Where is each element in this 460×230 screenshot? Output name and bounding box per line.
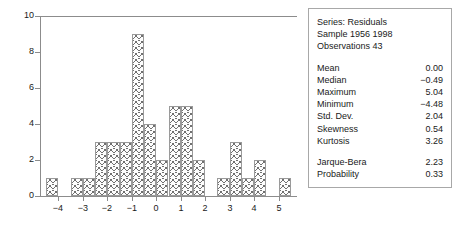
statistic-row: Median−0.49 (317, 74, 443, 86)
x-axis-label: 3 (218, 203, 242, 213)
x-axis-line (40, 196, 297, 197)
statistic-row: Skewness0.54 (317, 123, 443, 135)
statistic-label: Skewness (317, 123, 358, 135)
x-axis-label: 4 (242, 203, 266, 213)
statistic-value: 0.54 (425, 123, 443, 135)
histogram-bar (230, 142, 242, 196)
histogram-bar (217, 178, 229, 196)
x-axis-tick (58, 196, 59, 201)
statistic-value: 2.23 (425, 156, 443, 168)
histogram-bar (46, 178, 58, 196)
x-axis-tick (181, 196, 182, 201)
histogram-bar (242, 178, 254, 196)
y-axis-label: 8 (4, 47, 34, 56)
y-axis-tick (35, 52, 40, 53)
y-axis-label: 10 (4, 11, 34, 20)
x-axis-tick (107, 196, 108, 201)
histogram-bar (95, 142, 107, 196)
statistic-label: Median (317, 74, 347, 86)
x-axis-label: −1 (120, 203, 144, 213)
histogram-bar (120, 142, 132, 196)
x-axis-label: 0 (144, 203, 168, 213)
statistic-value: −4.48 (420, 98, 443, 110)
y-axis-tick (35, 16, 40, 17)
y-axis-tick (35, 160, 40, 161)
spacer (317, 147, 443, 156)
histogram-bar (144, 124, 156, 196)
x-axis-label: 5 (267, 203, 291, 213)
statistic-label: Mean (317, 62, 340, 74)
statistic-label: Probability (317, 168, 359, 180)
statistic-row: Maximum5.04 (317, 86, 443, 98)
statistic-label: Std. Dev. (317, 110, 353, 122)
histogram-bar (279, 178, 291, 196)
statistics-rows: Mean0.00Median−0.49Maximum5.04Minimum−4.… (317, 62, 443, 147)
y-axis-label-text: 2 (8, 155, 34, 164)
statistics-panel: Series: ResidualsSample 1956 1998Observa… (308, 8, 452, 188)
y-axis-line (40, 16, 41, 197)
x-axis-tick (230, 196, 231, 201)
histogram-bar (169, 106, 181, 196)
histogram-bar (132, 34, 144, 196)
statistics-header-line: Series: Residuals (317, 16, 443, 28)
x-axis-tick (279, 196, 280, 201)
statistic-value: 0.33 (425, 168, 443, 180)
x-axis-tick (156, 196, 157, 201)
statistic-row: Std. Dev.2.04 (317, 110, 443, 122)
histogram-bar (254, 160, 266, 196)
x-axis-label: −2 (95, 203, 119, 213)
statistic-label: Maximum (317, 86, 356, 98)
statistic-label: Jarque-Bera (317, 156, 367, 168)
x-axis-label: −4 (46, 203, 70, 213)
y-axis-label: 4 (4, 119, 34, 128)
y-axis-label-text: 0 (8, 191, 34, 200)
histogram-bar (193, 160, 205, 196)
x-axis-label: 1 (169, 203, 193, 213)
statistic-label: Minimum (317, 98, 354, 110)
histogram-bar (71, 178, 83, 196)
statistic-value: 2.04 (425, 110, 443, 122)
x-axis-label: −3 (71, 203, 95, 213)
statistics-test-rows: Jarque-Bera2.23Probability0.33 (317, 156, 443, 180)
x-axis-tick (254, 196, 255, 201)
histogram-bar (181, 106, 193, 196)
statistic-value: −0.49 (420, 74, 443, 86)
statistic-value: 5.04 (425, 86, 443, 98)
statistic-label: Kurtosis (317, 135, 350, 147)
y-axis-label-text: 8 (8, 47, 34, 56)
y-axis-label: 2 (4, 155, 34, 164)
statistics-header: Series: ResidualsSample 1956 1998Observa… (317, 16, 443, 53)
statistic-test-row: Probability0.33 (317, 168, 443, 180)
histogram-bar (83, 178, 95, 196)
x-axis-tick (83, 196, 84, 201)
statistic-row: Minimum−4.48 (317, 98, 443, 110)
histogram-bar (107, 142, 119, 196)
y-axis-label-text: 6 (8, 83, 34, 92)
statistic-row: Mean0.00 (317, 62, 443, 74)
y-axis-label: 6 (4, 83, 34, 92)
statistic-row: Kurtosis3.26 (317, 135, 443, 147)
statistics-header-line: Observations 43 (317, 40, 443, 52)
x-axis-label: 2 (193, 203, 217, 213)
statistic-value: 3.26 (425, 135, 443, 147)
y-axis-tick (35, 88, 40, 89)
histogram-bar (156, 160, 168, 196)
histogram-figure: 0246810 −4−3−2−1012345 Series: Residuals… (0, 0, 460, 230)
spacer (317, 53, 443, 62)
y-axis-tick (35, 196, 40, 197)
statistic-value: 0.00 (425, 62, 443, 74)
statistics-header-line: Sample 1956 1998 (317, 28, 443, 40)
statistic-test-row: Jarque-Bera2.23 (317, 156, 443, 168)
y-axis-label-text: 10 (8, 11, 34, 20)
y-axis-label-text: 4 (8, 119, 34, 128)
plot-top-rule (40, 16, 297, 17)
x-axis-tick (205, 196, 206, 201)
y-axis-tick (35, 124, 40, 125)
y-axis-label: 0 (4, 191, 34, 200)
x-axis-tick (132, 196, 133, 201)
histogram-plot-area: 0246810 −4−3−2−1012345 (0, 0, 300, 230)
